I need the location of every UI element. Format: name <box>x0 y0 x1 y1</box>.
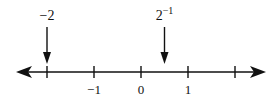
marker-label-exponent: −1 <box>163 5 174 16</box>
marker-label: 2−1 <box>156 5 174 23</box>
down-arrowhead-icon <box>43 52 51 64</box>
tick-label: −1 <box>87 82 101 97</box>
marker-label-base: −2 <box>40 8 55 23</box>
marker-arrow: 2−1 <box>156 5 174 64</box>
marker-label: −2 <box>40 8 55 23</box>
number-line-diagram: −101 −22−1 <box>0 0 279 100</box>
tick-label: 1 <box>185 82 192 97</box>
marker-arrow: −2 <box>40 8 55 64</box>
tick-label: 0 <box>138 82 145 97</box>
down-arrowhead-icon <box>161 52 169 64</box>
marker-label-base: 2 <box>156 8 163 23</box>
